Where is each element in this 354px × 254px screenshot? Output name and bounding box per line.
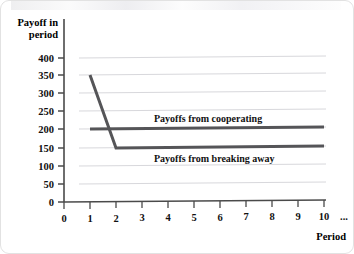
annotation-cooperating: Payoffs from cooperating [154, 113, 262, 124]
gridline-100 [79, 164, 326, 166]
y-tick-label-150: 150 [38, 143, 54, 154]
series-breaking-away [90, 75, 324, 148]
y-axis-title-line1: Payoff in [17, 17, 58, 28]
x-tick-label-3: 3 [139, 212, 144, 223]
y-axis-title: Payoff in period [17, 17, 58, 40]
y-axis-title-line2: period [29, 29, 58, 40]
gridline-400 [79, 56, 326, 58]
y-tick-label-50: 50 [44, 179, 55, 190]
x-tick-label-ellipsis: ... [340, 211, 348, 222]
y-tick-label-250: 250 [38, 106, 54, 117]
x-tick-label-4: 4 [165, 212, 171, 223]
y-tick-label-350: 350 [38, 70, 54, 81]
y-axis-ticks [58, 58, 64, 202]
annotation-breaking-away: Payoffs from breaking away [154, 153, 274, 164]
x-tick-label-0: 0 [61, 213, 66, 224]
chart-page: 400 350 300 250 200 150 100 50 0 0 1 [0, 0, 354, 254]
series-cooperating [90, 127, 324, 129]
x-tick-label-7: 7 [243, 211, 248, 222]
x-tick-label-6: 6 [217, 212, 222, 223]
y-tick-label-300: 300 [38, 88, 54, 99]
y-tick-label-200: 200 [38, 124, 54, 135]
y-axis-tick-labels: 400 350 300 250 200 150 100 50 0 [38, 53, 54, 208]
y-tick-label-0: 0 [49, 197, 54, 208]
gridline-50 [79, 182, 326, 184]
series-line-breaking-away [90, 75, 324, 148]
y-tick-label-400: 400 [38, 53, 54, 64]
x-tick-label-9: 9 [295, 211, 300, 222]
x-axis [64, 200, 326, 202]
gridline-350 [79, 73, 326, 75]
x-axis-tick-labels: 0 1 2 3 4 5 6 7 8 9 10 ... [61, 211, 348, 224]
x-tick-label-1: 1 [87, 213, 92, 224]
payoff-line-chart: 400 350 300 250 200 150 100 50 0 0 1 [1, 1, 354, 254]
gridline-250 [79, 109, 326, 111]
y-tick-label-100: 100 [38, 161, 54, 172]
series-line-cooperating [90, 127, 324, 129]
x-tick-label-8: 8 [269, 211, 274, 222]
x-tick-label-10: 10 [319, 211, 330, 222]
gridline-300 [79, 91, 326, 93]
x-axis-title: Period [316, 231, 346, 242]
x-tick-label-2: 2 [113, 213, 118, 224]
x-tick-label-5: 5 [191, 212, 196, 223]
